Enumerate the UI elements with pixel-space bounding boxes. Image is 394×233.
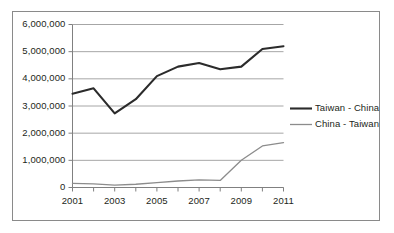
data-series [73, 46, 284, 185]
y-tick-label: 5,000,000 [22, 45, 65, 56]
axis-ticks [69, 25, 284, 192]
legend-item-2: China - Taiwan [315, 118, 379, 129]
series-line-1 [73, 46, 284, 113]
y-tick-label: 3,000,000 [22, 100, 65, 111]
y-tick-label: 6,000,000 [22, 18, 65, 29]
y-tick-label: 4,000,000 [22, 72, 65, 83]
x-tick-label: 2001 [57, 195, 89, 206]
x-tick-label: 2003 [99, 195, 131, 206]
x-tick-label: 2011 [268, 195, 300, 206]
gridlines [73, 25, 284, 188]
series-line-2 [73, 143, 284, 185]
legend-swatches [290, 109, 312, 125]
y-tick-label: 0 [60, 181, 65, 192]
y-tick-label: 2,000,000 [22, 127, 65, 138]
x-tick-label: 2009 [225, 195, 257, 206]
y-tick-label: 1,000,000 [22, 154, 65, 165]
x-tick-label: 2007 [183, 195, 215, 206]
x-tick-label: 2005 [141, 195, 173, 206]
legend-item-1: Taiwan - China [315, 102, 379, 113]
